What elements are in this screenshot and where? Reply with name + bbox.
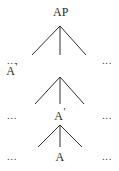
ellipsis-right-row1: ... [102, 55, 112, 66]
branch-left-bottom [38, 125, 60, 147]
branch-right-top [60, 26, 86, 55]
node-a-bar-middle-prime: ' [63, 105, 65, 117]
ellipsis-left-row3: ... [7, 151, 17, 162]
ellipsis-right-row2: ... [102, 110, 112, 121]
branch-right-middle [60, 77, 84, 104]
ellipsis-left-row1: ... [7, 55, 17, 66]
ellipsis-right-row3: ... [102, 151, 112, 162]
node-a-head: A [55, 151, 64, 163]
ellipsis-left-row2: ... [7, 110, 17, 121]
syntax-tree-diagram: AP A' A' A ... ... ... ... ... ... [0, 0, 119, 171]
branch-group-bottom [38, 125, 82, 147]
node-a-bar-left: A' [6, 65, 17, 77]
node-ap: AP [53, 6, 69, 18]
node-ap-label: AP [53, 5, 69, 19]
branch-right-bottom [60, 125, 82, 147]
branch-left-middle [35, 77, 60, 104]
node-a-bar-left-label: A [6, 64, 15, 78]
tree-branches [0, 0, 119, 171]
node-a-bar-middle: A' [54, 110, 65, 122]
branch-group-top [32, 26, 86, 55]
node-a-head-label: A [55, 150, 64, 164]
branch-group-middle [35, 77, 84, 104]
branch-left-top [32, 26, 60, 55]
node-a-bar-middle-label: A [54, 109, 63, 123]
